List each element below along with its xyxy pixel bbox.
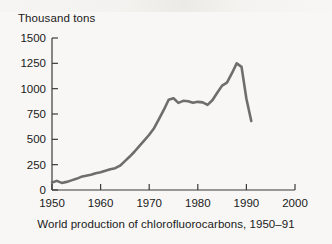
figure-caption: World production of chlorofluorocarbons,…	[0, 218, 332, 230]
figure-container: Thousand tons 0250500750100012501500 195…	[0, 0, 332, 244]
y-tick-label: 1000	[20, 83, 46, 95]
x-tick-label: 1980	[185, 197, 211, 209]
x-tick-label: 2000	[282, 197, 308, 209]
y-tick-label: 1250	[20, 57, 46, 69]
y-tick-label: 750	[27, 108, 46, 120]
x-tick-label: 1950	[39, 197, 65, 209]
y-tick-label: 0	[40, 184, 46, 196]
x-tick-label: 1960	[88, 197, 114, 209]
x-tick-label: 1990	[234, 197, 260, 209]
x-tick-label: 1970	[136, 197, 162, 209]
y-tick-label: 250	[27, 159, 46, 171]
series-line-world-cfc-production	[52, 63, 251, 183]
y-tick-label: 500	[27, 133, 46, 145]
chart-plot: 0250500750100012501500 19501960197019801…	[0, 0, 332, 244]
y-tick-label: 1500	[20, 32, 46, 44]
x-axis-ticks: 195019601970198019902000	[39, 184, 308, 209]
